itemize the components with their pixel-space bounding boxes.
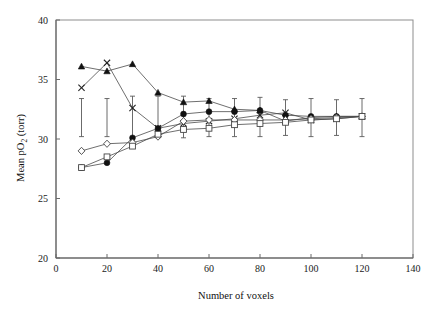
marker-circle-filled — [181, 111, 187, 117]
marker-square-open — [334, 116, 340, 122]
x-tick-label: 60 — [204, 263, 214, 274]
marker-square-open — [308, 117, 314, 123]
marker-circle-filled — [104, 160, 110, 166]
y-tick-label: 30 — [38, 134, 48, 145]
x-tick-label: 80 — [255, 263, 265, 274]
marker-square-open — [283, 119, 289, 125]
x-tick-label: 120 — [355, 263, 370, 274]
y-axis-title-post: (torr) — [15, 114, 27, 139]
marker-square-open — [104, 154, 110, 160]
x-tick-label: 0 — [54, 263, 59, 274]
x-tick-label: 140 — [406, 263, 421, 274]
marker-square-open — [232, 122, 238, 128]
plot-svg: 020406080100120140 2025303540 Number of … — [0, 0, 432, 313]
marker-square-open — [206, 125, 212, 131]
marker-circle-filled — [232, 109, 238, 115]
x-tick-label: 40 — [153, 263, 163, 274]
x-tick-label: 100 — [304, 263, 319, 274]
y-tick-label: 40 — [38, 15, 48, 26]
marker-square-open — [130, 143, 136, 149]
marker-square-open — [79, 165, 85, 171]
marker-circle-filled — [257, 108, 263, 114]
marker-square-open — [155, 131, 161, 137]
marker-circle-filled — [155, 125, 161, 131]
chart-figure: 020406080100120140 2025303540 Number of … — [0, 0, 432, 313]
marker-square-open — [257, 121, 263, 127]
marker-circle-filled — [206, 109, 212, 115]
x-axis-title: Number of voxels — [198, 290, 274, 301]
marker-square-open — [359, 113, 365, 119]
marker-square-open — [181, 127, 187, 133]
y-axis-title-pre: Mean pO — [15, 142, 26, 182]
y-tick-label: 25 — [38, 193, 48, 204]
y-tick-label: 20 — [38, 253, 48, 264]
y-tick-label: 35 — [38, 74, 48, 85]
x-tick-label: 20 — [102, 263, 112, 274]
